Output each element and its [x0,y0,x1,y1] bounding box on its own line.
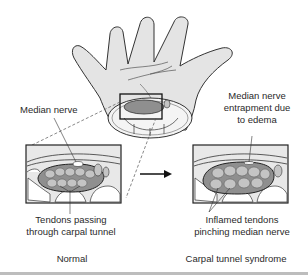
label-entrapment-line2: entrapment due [217,102,297,114]
caption-cts: Carpal tunnel syndrome [178,253,294,265]
label-tendons: Tendons passing through carpal tunnel [20,214,122,238]
label-inflamed-line1: Inflamed tendons [188,214,296,226]
caption-normal: Normal [46,253,98,265]
hand-illustration [72,17,232,138]
bottom-divider [0,272,308,275]
label-entrapment-line1: Median nerve [217,90,297,102]
arrow-icon [140,170,172,178]
label-tendons-line1: Tendons passing [20,214,122,226]
normal-cross-section [26,145,121,203]
label-inflamed-line2: pinching median nerve [188,226,296,238]
label-tendons-line2: through carpal tunnel [20,226,122,238]
cts-cross-section [193,145,288,203]
label-entrapment-line3: to edema [217,114,297,126]
label-entrapment: Median nerve entrapment due to edema [217,90,297,126]
label-inflamed-tendons: Inflamed tendons pinching median nerve [188,214,296,238]
label-median-nerve: Median nerve [20,104,78,116]
